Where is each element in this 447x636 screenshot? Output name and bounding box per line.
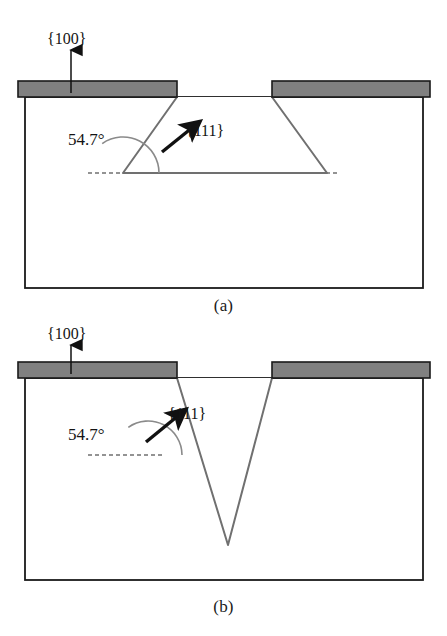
mask-layer-left-b [18, 362, 177, 378]
plane-100-label-b: {100} [47, 325, 86, 343]
etch-profile-figure: {100} {111} 54.7° {100} {111} 54.7° (a) … [0, 0, 447, 636]
mask-layer-right-b [272, 362, 430, 378]
panel-b [18, 345, 430, 580]
sidewall-angle-label-a: 54.7° [68, 130, 105, 150]
plane-111-label-a: {111} [186, 122, 224, 140]
diagram-canvas [0, 0, 447, 636]
sidewall-angle-label-b: 54.7° [68, 425, 105, 445]
panel-a [18, 50, 430, 288]
plane-100-label-a: {100} [47, 30, 86, 48]
panel-caption-b: (b) [0, 597, 447, 617]
mask-layer-left-a [18, 81, 177, 97]
mask-layer-right-a [272, 81, 430, 97]
panel-caption-a: (a) [0, 296, 447, 316]
plane-111-label-b: {111} [168, 405, 206, 423]
